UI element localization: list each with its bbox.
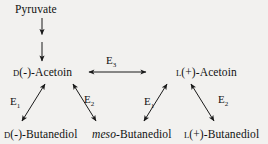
node-meso-butanediol-label: -Butanediol (116, 128, 171, 140)
enzyme-e2-left-symbol: E (84, 93, 91, 105)
arrow-d-butanediol-d-acetoin (22, 84, 45, 121)
enzyme-e1-right-symbol: E (144, 95, 151, 107)
node-d-butanediol-label: (-)-Butanediol (10, 128, 77, 140)
node-pyruvate-label: Pyruvate (15, 3, 57, 15)
enzyme-e1-right-subscript: 1 (151, 102, 155, 110)
enzyme-label-e1-right: E1 (144, 96, 154, 107)
enzyme-e3-subscript: 3 (113, 61, 117, 69)
enzyme-e2-left-subscript: 2 (91, 100, 95, 108)
arrow-l-acetoin-l-butanediol (191, 84, 214, 121)
enzyme-label-e3: E3 (106, 55, 116, 66)
enzyme-e2-right-symbol: E (218, 93, 225, 105)
node-l-butanediol: L(+)-Butanediol (184, 129, 259, 141)
pathway-diagram: Pyruvate D(-)-Acetoin L(+)-Acetoin D(-)-… (0, 0, 268, 144)
node-pyruvate: Pyruvate (15, 4, 57, 16)
enzyme-e1-left-symbol: E (10, 95, 17, 107)
node-l-acetoin-label: (+)-Acetoin (181, 66, 236, 78)
node-meso-butanediol-prefix: meso (92, 128, 116, 140)
node-meso-butanediol: meso-Butanediol (92, 129, 171, 141)
enzyme-e1-left-subscript: 1 (17, 102, 21, 110)
node-l-acetoin: L(+)-Acetoin (176, 67, 237, 79)
node-l-butanediol-label: (+)-Butanediol (189, 128, 259, 140)
enzyme-e3-symbol: E (106, 54, 113, 66)
enzyme-label-e2-left: E2 (84, 94, 94, 105)
enzyme-label-e2-right: E2 (218, 94, 228, 105)
enzyme-e2-right-subscript: 2 (225, 100, 229, 108)
node-d-acetoin-label: (-)-Acetoin (19, 66, 72, 78)
enzyme-label-e1-left: E1 (10, 96, 20, 107)
node-d-butanediol: D(-)-Butanediol (4, 129, 78, 141)
node-d-acetoin: D(-)-Acetoin (13, 67, 72, 79)
